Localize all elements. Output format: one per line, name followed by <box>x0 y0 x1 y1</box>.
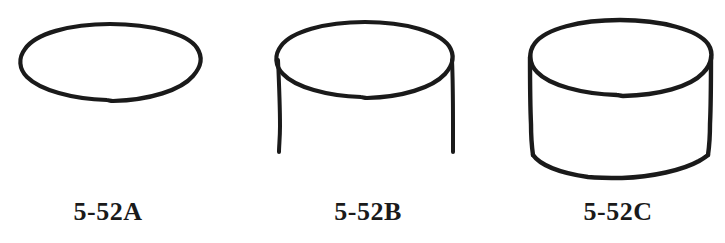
ellipse-outline-c <box>530 20 711 96</box>
figure-b-group <box>276 22 453 152</box>
figure-a-drawing: 5-52A 5-52B 5-52C <box>0 0 725 243</box>
figure-label-a: 5-52A <box>74 197 143 226</box>
figure-a-group <box>20 24 200 101</box>
ellipse-outline-a <box>20 24 200 101</box>
left-side-line-b <box>278 60 280 152</box>
right-side-line-b <box>452 60 453 152</box>
left-side-line-c <box>530 57 533 155</box>
figure-c-group <box>530 20 711 178</box>
right-side-line-c <box>708 57 711 155</box>
ellipse-outline-b <box>276 22 452 98</box>
bottom-arc-c <box>533 155 708 178</box>
figure-sheet: 5-52A 5-52B 5-52C <box>0 0 725 243</box>
figure-label-c: 5-52C <box>584 197 653 226</box>
figure-label-b: 5-52B <box>334 197 402 226</box>
